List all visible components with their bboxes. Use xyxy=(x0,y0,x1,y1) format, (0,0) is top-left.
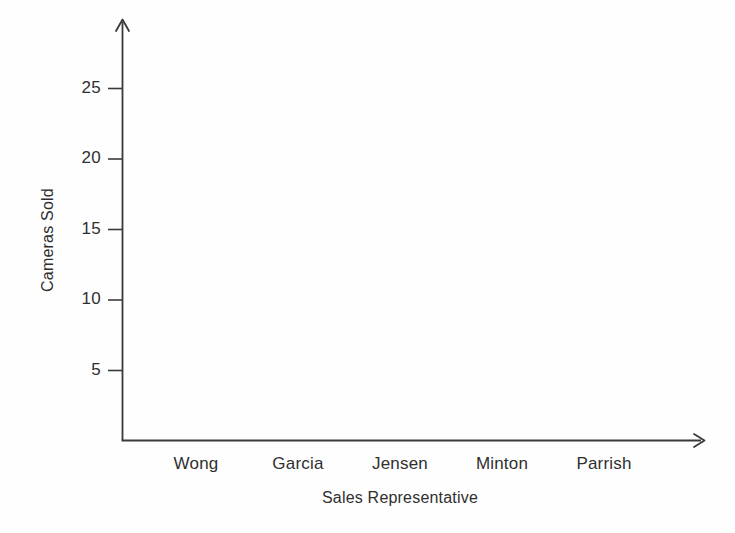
y-tick-label-5: 5 xyxy=(91,360,101,379)
y-tick-label-25: 25 xyxy=(81,78,101,97)
x-category-label-garcia: Garcia xyxy=(272,454,324,473)
y-tick-label-20: 20 xyxy=(81,148,101,167)
chart-svg: 5 10 15 20 25 Cameras Sold Wong Garcia J… xyxy=(0,0,735,533)
x-category-label-parrish: Parrish xyxy=(576,454,631,473)
y-tick-label-15: 15 xyxy=(81,219,101,238)
x-category-label-wong: Wong xyxy=(174,454,219,473)
y-axis-title: Cameras Sold xyxy=(39,188,56,292)
x-axis-title: Sales Representative xyxy=(322,489,478,506)
chart-container: 5 10 15 20 25 Cameras Sold Wong Garcia J… xyxy=(0,0,735,533)
y-tick-label-10: 10 xyxy=(81,289,101,308)
x-category-label-jensen: Jensen xyxy=(372,454,428,473)
plot-area xyxy=(122,20,703,440)
x-category-label-minton: Minton xyxy=(476,454,528,473)
